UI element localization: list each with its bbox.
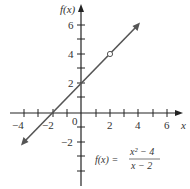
y-tick-label-6: 6 <box>68 19 74 31</box>
y-axis-label: f(x) <box>60 3 76 16</box>
function-graph: f(x) x 0 −4 −2 2 4 6 6 4 2 −2 f(x) = x² … <box>0 0 190 189</box>
x-axis-arrow-icon <box>175 110 183 116</box>
open-circle-hole <box>107 51 112 56</box>
formula-numerator: x² − 4 <box>129 146 154 157</box>
y-axis-arrow-icon <box>78 4 84 12</box>
function-formula: f(x) = x² − 4 x − 2 <box>95 146 160 171</box>
x-tick-label-4: 4 <box>135 119 141 131</box>
y-tick-label-neg2: −2 <box>61 136 73 148</box>
origin-label: 0 <box>72 115 78 127</box>
y-tick-label-2: 2 <box>68 77 74 89</box>
y-tick-label-4: 4 <box>68 48 74 60</box>
x-tick-label-6: 6 <box>164 119 170 131</box>
formula-lhs: f(x) = <box>95 154 118 166</box>
x-tick-label-neg2: −2 <box>42 119 54 131</box>
x-tick-label-2: 2 <box>107 119 113 131</box>
formula-denominator: x − 2 <box>130 160 152 171</box>
x-tick-label-neg4: −4 <box>12 119 24 131</box>
x-axis-label: x <box>180 119 186 131</box>
